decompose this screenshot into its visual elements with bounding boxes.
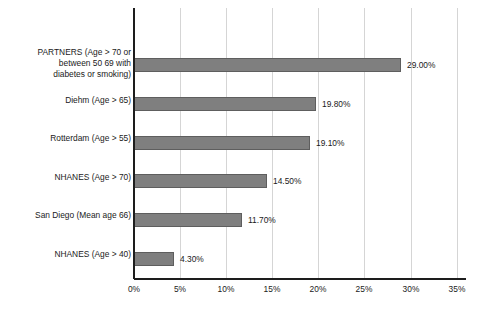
category-label: San Diego (Mean age 66) — [0, 210, 131, 221]
plot-area: 29.00% 19.80% 19.10% 14.50% 11.70% 4.30% — [134, 8, 457, 278]
category-label: NHANES (Age > 70) — [0, 172, 131, 183]
x-tick-label: 30% — [403, 284, 420, 294]
bar — [134, 58, 401, 72]
bar-value-label: 14.50% — [273, 176, 301, 186]
x-tick-label: 20% — [310, 284, 327, 294]
gridline — [411, 8, 412, 278]
bar — [134, 97, 316, 111]
category-label: Rotterdam (Age > 55) — [0, 133, 131, 144]
bar — [134, 213, 242, 227]
bar-value-label: 11.70% — [248, 215, 276, 225]
gridline — [364, 8, 365, 278]
x-axis-line — [134, 278, 466, 280]
y-axis-line — [133, 8, 135, 279]
bar-value-label: 4.30% — [180, 254, 204, 264]
category-label: PARTNERS (Age > 70 or between 50 69 with… — [0, 47, 131, 80]
x-tick-label: 25% — [356, 284, 373, 294]
x-tick-label: 35% — [449, 284, 466, 294]
bar — [134, 252, 174, 266]
x-tick-label: 15% — [264, 284, 281, 294]
bar-value-label: 29.00% — [407, 60, 435, 70]
category-axis: PARTNERS (Age > 70 or between 50 69 with… — [0, 0, 131, 278]
bar-value-label: 19.80% — [322, 99, 350, 109]
x-axis-tick-labels: 0% 5% 10% 15% 20% 25% 30% 35% — [0, 284, 488, 298]
category-label: NHANES (Age > 40) — [0, 249, 131, 260]
bar — [134, 174, 267, 188]
gridline — [457, 8, 458, 278]
bar — [134, 136, 310, 150]
x-tick-label: 10% — [218, 284, 235, 294]
x-tick-label: 0% — [128, 284, 140, 294]
category-label: Diehm (Age > 65) — [0, 95, 131, 106]
bar-chart: PARTNERS (Age > 70 or between 50 69 with… — [0, 0, 488, 311]
bar-value-label: 19.10% — [316, 138, 344, 148]
x-tick-label: 5% — [174, 284, 186, 294]
